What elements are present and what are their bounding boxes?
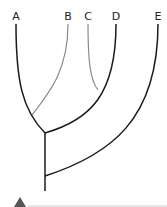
taxon-label-c: C <box>84 10 92 23</box>
branch-e <box>45 24 158 176</box>
branch-b <box>32 24 68 115</box>
taxon-label-b: B <box>64 10 72 23</box>
branch-d <box>45 24 116 133</box>
branch-a <box>16 24 45 133</box>
branch-c <box>88 24 98 90</box>
taxon-label-e: E <box>155 10 162 23</box>
tree-diagram: A B C D E <box>0 0 167 207</box>
taxon-label-d: D <box>112 10 120 23</box>
taxon-label-a: A <box>12 10 20 23</box>
triangle-icon <box>14 197 26 207</box>
